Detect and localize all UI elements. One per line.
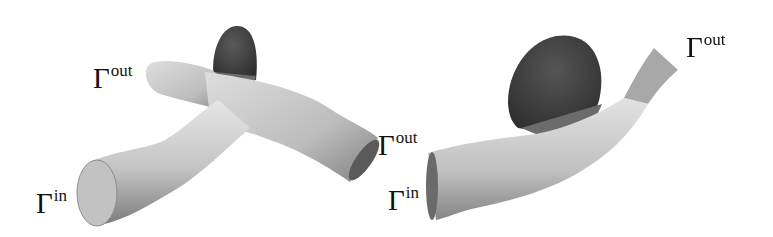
outlet-label-upper-left: Γout bbox=[93, 64, 133, 93]
right-vessel-panel: Γout Γin bbox=[386, 0, 773, 237]
outlet-label-upper-right: Γout bbox=[686, 33, 726, 62]
inlet-label-right: Γin bbox=[388, 186, 419, 215]
left-vessel-panel: Γout Γout Γin bbox=[0, 0, 386, 237]
inlet-label-left: Γin bbox=[36, 189, 67, 218]
